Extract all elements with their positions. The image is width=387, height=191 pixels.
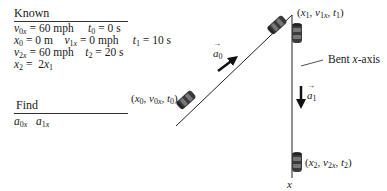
axis-pointer-line — [301, 60, 323, 66]
bent-axis-label: Bent x-axis — [328, 53, 380, 65]
car-top-vertical-icon — [292, 23, 302, 43]
car-top-ramp-icon — [266, 15, 288, 36]
point2-label: (x2, v2x, t2) — [305, 156, 352, 168]
point0-label: (x0, v0x, t0) — [131, 92, 178, 104]
accel0-label: a→0 — [213, 47, 223, 59]
accel1-label: a→1 — [307, 89, 317, 101]
car-start-icon — [175, 90, 197, 111]
x-axis-label: x — [287, 178, 292, 190]
point1-label: (x1, v1x, t1) — [297, 6, 344, 18]
car-bottom-icon — [292, 152, 302, 172]
